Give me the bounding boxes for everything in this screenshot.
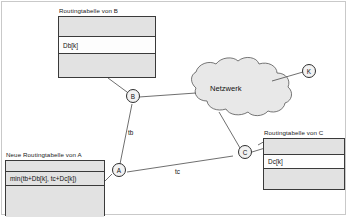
table-row: Db[k]	[59, 37, 155, 54]
table-a-title: Neue Routingtabelle von A	[6, 151, 82, 158]
table-c-cell-1: Dc[k]	[264, 158, 283, 165]
node-k: K	[302, 64, 316, 78]
node-k-label: K	[307, 68, 311, 75]
node-a-label: A	[117, 167, 121, 174]
table-a-cell-1: min(tb+Db[k], tc+Dc[k])	[6, 175, 77, 182]
link-table-b-to-node-b	[108, 78, 127, 92]
table-b-title: Routingtabelle von B	[59, 7, 118, 14]
table-row	[264, 139, 344, 155]
network-cloud-label: Netzwerk	[210, 84, 242, 93]
link-table-a-to-node-a	[104, 174, 112, 182]
diagram-canvas: Routingtabelle von B Db[k] Neue Routingt…	[0, 0, 350, 219]
table-c-title: Routingtabelle von C	[264, 129, 323, 136]
link-node-b-to-cloud	[139, 93, 196, 97]
table-row	[6, 161, 104, 172]
edge-label-tb: tb	[128, 129, 133, 136]
table-row: min(tb+Db[k], tc+Dc[k])	[6, 172, 104, 186]
table-row	[59, 54, 155, 77]
node-b-label: B	[131, 93, 135, 100]
table-row: Dc[k]	[264, 155, 344, 169]
node-c-label: C	[243, 149, 248, 156]
table-row	[6, 186, 104, 217]
table-row	[59, 17, 155, 37]
table-b-cell-1: Db[k]	[59, 42, 78, 49]
routing-table-c: Dc[k]	[263, 138, 345, 190]
node-b: B	[126, 89, 140, 103]
link-node-a-to-node-c	[127, 156, 233, 172]
node-a: A	[112, 163, 126, 177]
table-row	[264, 169, 344, 189]
link-cloud-to-node-c	[219, 112, 240, 148]
edge-label-tc: tc	[175, 168, 180, 175]
routing-table-b: Db[k]	[58, 16, 156, 78]
node-c: C	[238, 145, 252, 159]
routing-table-a: min(tb+Db[k], tc+Dc[k])	[5, 160, 105, 216]
